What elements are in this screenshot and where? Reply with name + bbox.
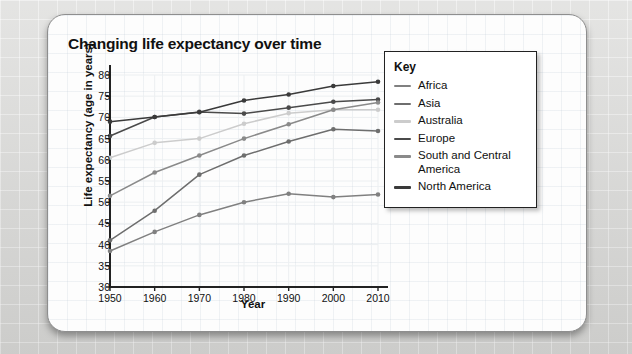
legend-item: Africa [394, 79, 527, 93]
chart-card: Changing life expectancy over time Life … [47, 14, 587, 332]
legend-title: Key [394, 60, 527, 74]
legend-item: Australia [394, 114, 527, 128]
x-tick-label: 1950 [98, 292, 121, 304]
legend-line-swatch [394, 138, 411, 140]
x-axis-ticks: 1950196019701980199020002010 [48, 292, 586, 308]
y-tick-label: 65 [88, 133, 110, 145]
y-tick-label: 45 [88, 217, 110, 229]
x-tick-label: 1990 [277, 292, 300, 304]
legend-item-label: North America [418, 180, 491, 194]
x-tick-label: 2000 [322, 292, 345, 304]
legend-line-swatch [394, 120, 411, 122]
y-tick-label: 55 [88, 175, 110, 187]
legend-item-label: Europe [418, 132, 455, 146]
legend-line-swatch [394, 103, 411, 105]
x-tick-label: 1960 [143, 292, 166, 304]
legend-box: Key AfricaAsiaAustraliaEuropeSouth and C… [384, 51, 537, 208]
legend-item-label: South and Central America [418, 149, 527, 176]
legend-item: South and Central America [394, 149, 527, 176]
legend-item: Europe [394, 132, 527, 146]
y-tick-label: 50 [88, 196, 110, 208]
legend-item: North America [394, 180, 527, 194]
legend-item-label: Asia [418, 97, 440, 111]
x-tick-label: 1970 [188, 292, 211, 304]
x-tick-label: 1980 [232, 292, 255, 304]
y-tick-label: 35 [88, 260, 110, 272]
legend-items: AfricaAsiaAustraliaEuropeSouth and Centr… [394, 79, 527, 194]
legend-line-swatch [394, 85, 411, 87]
y-tick-label: 75 [88, 90, 110, 102]
legend-line-swatch [394, 155, 411, 157]
y-tick-label: 70 [88, 111, 110, 123]
y-tick-label: 80 [88, 69, 110, 81]
y-tick-label: 60 [88, 154, 110, 166]
x-tick-label: 2010 [366, 292, 389, 304]
y-tick-label: 40 [88, 239, 110, 251]
legend-item-label: Africa [418, 79, 447, 93]
legend-item: Asia [394, 97, 527, 111]
legend-line-swatch [394, 186, 411, 188]
legend-item-label: Australia [418, 114, 463, 128]
y-axis-ticks: 8075706560555045403530 [86, 15, 110, 331]
